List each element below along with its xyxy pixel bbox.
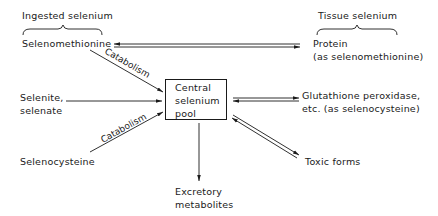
protein-label-line2: (as selenomethionine): [313, 51, 423, 63]
tissue-brace: [317, 25, 397, 35]
tissue-selenium-label: Tissue selenium: [318, 10, 397, 22]
gpx-label-line2: etc. (as selenocysteine): [302, 103, 420, 115]
ingested-selenium-label: Ingested selenium: [22, 10, 113, 22]
selenocysteine-label: Selenocysteine: [20, 156, 95, 168]
excretory-label-line2: metabolites: [175, 199, 234, 211]
pool-label-line1: Central: [175, 82, 211, 94]
protein-label-line1: Protein: [313, 38, 348, 50]
selenite-label-line1: Selenite,: [20, 92, 63, 104]
selenite-label-line2: selenate: [20, 105, 62, 117]
arrow-pool-to-toxic: [233, 115, 299, 155]
selenomethionine-label: Selenomethionine: [22, 38, 111, 50]
pool-label-line2: selenium: [175, 95, 220, 107]
selenium-metabolism-diagram: Ingested selenium Tissue selenium Seleno…: [0, 0, 438, 216]
toxic-forms-label: Toxic forms: [305, 156, 361, 168]
ingested-brace: [23, 25, 102, 35]
gpx-label-line1: Glutathione peroxidase,: [302, 90, 420, 102]
central-selenium-pool-box: Central selenium pool: [165, 79, 227, 120]
pool-label-line3: pool: [175, 108, 196, 120]
excretory-label-line1: Excretory: [175, 186, 222, 198]
arrow-toxic-to-pool: [232, 118, 297, 158]
